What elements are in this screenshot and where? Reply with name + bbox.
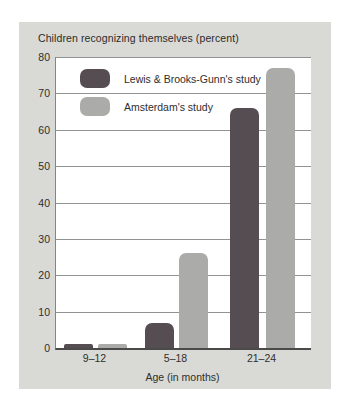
y-tick-label-30: 30 — [24, 234, 50, 244]
y-tick-label-10: 10 — [24, 307, 50, 317]
y-tick-label-0: 0 — [24, 343, 50, 353]
legend-label-lewis: Lewis & Brooks-Gunn's study — [124, 73, 261, 85]
bar-amsterdam-21–24 — [266, 68, 295, 348]
chart-title: Children recognizing themselves (percent… — [38, 32, 239, 44]
gridline-80 — [56, 57, 311, 58]
legend-entry-lewis: Lewis & Brooks-Gunn's study — [80, 69, 261, 88]
bar-lewis-5–18 — [145, 323, 174, 348]
bar-amsterdam-5–18 — [179, 253, 208, 348]
y-tick-label-50: 50 — [24, 161, 50, 171]
legend-label-amsterdam: Amsterdam's study — [124, 101, 213, 113]
x-axis-title: Age (in months) — [55, 371, 310, 383]
y-tick-label-80: 80 — [24, 52, 50, 62]
bar-lewis-21–24 — [230, 108, 259, 348]
x-tick-label-9–12: 9–12 — [65, 352, 125, 364]
x-tick-label-21–24: 21–24 — [232, 352, 292, 364]
plot-area: Lewis & Brooks-Gunn's study Amsterdam's … — [55, 57, 311, 350]
legend-swatch-lewis — [80, 69, 110, 88]
y-tick-label-40: 40 — [24, 198, 50, 208]
legend-swatch-amsterdam — [80, 97, 110, 116]
bar-lewis-9–12 — [64, 344, 93, 348]
y-tick-label-20: 20 — [24, 270, 50, 280]
x-tick-label-5–18: 5–18 — [146, 352, 206, 364]
bar-amsterdam-9–12 — [98, 344, 127, 348]
y-tick-label-70: 70 — [24, 88, 50, 98]
chart-panel: Children recognizing themselves (percent… — [19, 22, 331, 389]
y-tick-label-60: 60 — [24, 125, 50, 135]
